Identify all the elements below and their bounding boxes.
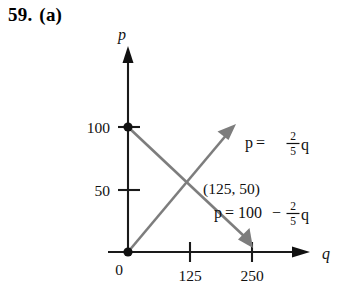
q-axis-label: q [322,245,330,263]
p-axis-arrowhead [123,46,134,63]
supply-equation-lhs: p [245,134,253,152]
y-tick-50-label: 50 [95,182,111,199]
supply-equation-annotation: p = 2 5 q [245,130,309,157]
supply-equation-variable: q [301,136,309,154]
demand-equation-variable: q [301,206,309,224]
y-tick-100-label: 100 [87,119,111,136]
x-tick-125-label: 125 [178,267,202,284]
p-axis [123,46,134,256]
equilibrium-point-label: (125, 50) [203,180,260,198]
demand-equation-constant: 100 [238,204,262,221]
supply-line-arrowhead [218,124,237,140]
supply-equation-numerator: 2 [290,130,296,142]
demand-intercept-dot [123,122,132,131]
demand-equation-denominator: 5 [290,215,296,227]
x-tick-125: 125 [178,242,202,284]
supply-equation-denominator: 5 [290,145,296,157]
x-tick-250-label: 250 [240,267,264,284]
demand-equation-numerator: 2 [290,200,296,212]
q-axis [108,247,310,258]
supply-equation-equals: = [256,134,265,151]
supply-demand-graph: p q 100 50 0 125 250 p = 2 5 q [0,0,355,295]
origin-dot [123,247,132,256]
q-axis-arrowhead [292,247,310,258]
demand-equation-lhs: p [214,204,222,222]
x-tick-0: 0 [115,261,123,278]
y-tick-50: 50 [95,182,141,199]
x-tick-0-label: 0 [115,261,123,278]
demand-equation-minus: − [272,204,281,221]
x-tick-250: 250 [240,242,264,284]
demand-equation-equals: = [225,204,234,221]
p-axis-label: p [117,26,126,44]
